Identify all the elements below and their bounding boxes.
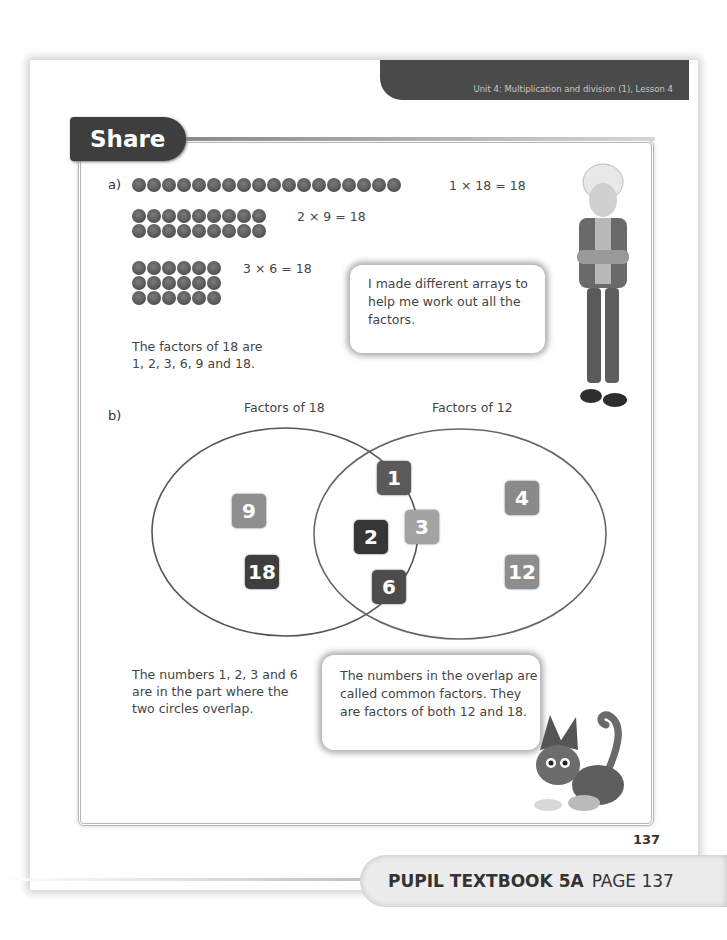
venn-right-label: Factors of 12: [432, 400, 513, 415]
counter-dot: [207, 291, 221, 305]
cat-speech-bubble: The numbers in the overlap are called co…: [322, 655, 540, 750]
counter-dot: [222, 209, 236, 223]
counter-dot: [132, 209, 146, 223]
counter-dot: [132, 291, 146, 305]
counter-dot: [252, 224, 266, 238]
counter-dot: [267, 178, 281, 192]
counter-dot: [207, 261, 221, 275]
part-b-label: b): [108, 408, 121, 423]
counter-dot: [357, 178, 371, 192]
counter-dot: [162, 276, 176, 290]
counter-dot: [192, 291, 206, 305]
counter-dot: [207, 178, 221, 192]
counter-dot: [147, 224, 161, 238]
counter-dot: [162, 178, 176, 192]
counter-dot: [162, 209, 176, 223]
counter-dot: [342, 178, 356, 192]
section-title: Share: [90, 126, 165, 152]
counter-dot: [252, 209, 266, 223]
overlap-explanation-text: The numbers 1, 2, 3 and 6 are in the par…: [132, 666, 302, 717]
counter-dot: [237, 209, 251, 223]
counter-dot: [237, 224, 251, 238]
counter-dot: [207, 276, 221, 290]
counter-dot: [297, 178, 311, 192]
counter-dot: [147, 178, 161, 192]
counter-dot: [192, 178, 206, 192]
cat-speech-text: The numbers in the overlap are called co…: [340, 668, 537, 719]
counter-dot: [192, 276, 206, 290]
factors-of-18-text: The factors of 18 are 1, 2, 3, 6, 9 and …: [132, 338, 262, 372]
array-3x6: [132, 261, 221, 305]
boy-speech-text: I made different arrays to help me work …: [368, 276, 528, 327]
footer-rule: [0, 878, 370, 881]
tile-right-0: 4: [505, 481, 539, 515]
tile-overlap-2: 3: [405, 510, 439, 544]
footer-book-label: PUPIL TEXTBOOK 5A: [388, 871, 584, 891]
equation-2x9: 2 × 9 = 18: [297, 209, 366, 224]
tile-overlap-3: 6: [372, 570, 406, 604]
counter-dot: [162, 291, 176, 305]
counter-dot: [162, 224, 176, 238]
equation-1x18: 1 × 18 = 18: [449, 178, 526, 193]
counter-dot: [132, 178, 146, 192]
counter-dot: [177, 178, 191, 192]
counter-dot: [252, 178, 266, 192]
section-title-rule: [185, 137, 655, 141]
factors-text-line-1: The factors of 18 are: [132, 338, 262, 355]
boy-speech-bubble: I made different arrays to help me work …: [350, 265, 545, 353]
counter-dot: [162, 261, 176, 275]
unit-header-band: Unit 4: Multiplication and division (1),…: [380, 60, 689, 100]
counter-dot: [132, 224, 146, 238]
factors-text-line-2: 1, 2, 3, 6, 9 and 18.: [132, 355, 262, 372]
tile-left-0: 9: [232, 494, 266, 528]
counter-dot: [177, 291, 191, 305]
counter-dot: [312, 178, 326, 192]
tile-overlap-0: 1: [377, 461, 411, 495]
counter-dot: [147, 291, 161, 305]
venn-left-label: Factors of 18: [244, 400, 325, 415]
page-number: 137: [633, 832, 660, 847]
counter-dot: [147, 276, 161, 290]
counter-dot: [327, 178, 341, 192]
counter-dot: [207, 209, 221, 223]
unit-lesson-label: Unit 4: Multiplication and division (1),…: [474, 84, 689, 100]
counter-dot: [222, 224, 236, 238]
counter-dot: [132, 276, 146, 290]
counter-dot: [207, 224, 221, 238]
footer-page-label: PAGE 137: [592, 871, 674, 891]
boy-character-illustration: [565, 160, 640, 420]
counter-dot: [147, 261, 161, 275]
counter-dot: [222, 178, 236, 192]
counter-dot: [132, 261, 146, 275]
counter-dot: [177, 276, 191, 290]
counter-dot: [372, 178, 386, 192]
cat-character-illustration: [528, 705, 638, 820]
part-a-label: a): [108, 177, 121, 192]
equation-3x6: 3 × 6 = 18: [243, 261, 312, 276]
counter-dot: [282, 178, 296, 192]
counter-dot: [177, 224, 191, 238]
counter-dot: [147, 209, 161, 223]
footer-page-reference: PUPIL TEXTBOOK 5A PAGE 137: [360, 855, 727, 907]
counter-dot: [192, 261, 206, 275]
tile-right-1: 12: [505, 555, 539, 589]
tile-left-1: 18: [245, 555, 279, 589]
section-title-tab: Share: [70, 117, 186, 161]
counter-dot: [192, 209, 206, 223]
array-2x9: [132, 209, 266, 238]
tile-overlap-1: 2: [354, 520, 388, 554]
counter-dot: [177, 261, 191, 275]
counter-dot: [237, 178, 251, 192]
counter-dot: [387, 178, 401, 192]
array-1x18: [132, 178, 401, 192]
counter-dot: [177, 209, 191, 223]
counter-dot: [192, 224, 206, 238]
